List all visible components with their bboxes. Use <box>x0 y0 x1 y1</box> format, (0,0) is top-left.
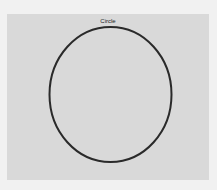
circle-shape <box>50 27 172 162</box>
drawing-canvas <box>0 0 217 190</box>
